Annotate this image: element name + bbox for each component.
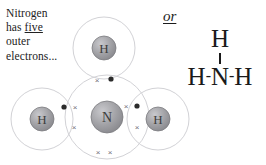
- nucleus-hydrogen-left: H: [30, 107, 54, 131]
- dot-and-cross-diagram: HHHN ×××××××: [0, 0, 266, 165]
- nucleus-hydrogen-right: H: [146, 107, 170, 131]
- bonding-cross-N-H-top: ×: [95, 76, 100, 85]
- nucleus-hydrogen-right-label: H: [153, 112, 162, 127]
- nitrogen-electron-2: ×: [124, 102, 129, 111]
- bonding-dot-N-H-left: [61, 104, 66, 109]
- nucleus-nitrogen: N: [91, 101, 123, 133]
- bonding-cross-N-H-left: ×: [72, 123, 77, 132]
- bonding-cross-N-H-right: ×: [135, 123, 140, 132]
- bonding-dot-N-H-top: [108, 76, 113, 81]
- nucleus-hydrogen-top: H: [92, 36, 116, 60]
- atom-nuclei: HHHN: [30, 36, 170, 133]
- lone-pair-cross-1: ×: [96, 148, 101, 157]
- nucleus-hydrogen-top-label: H: [99, 41, 108, 56]
- nucleus-nitrogen-label: N: [102, 110, 112, 125]
- lone-pair-cross-2: ×: [108, 148, 113, 157]
- nucleus-hydrogen-left-label: H: [37, 112, 46, 127]
- diagram-canvas: Nitrogen has five outer electrons... or …: [0, 0, 266, 165]
- nitrogen-electron-1: ×: [73, 103, 78, 112]
- bonding-dot-N-H-right: [134, 103, 139, 108]
